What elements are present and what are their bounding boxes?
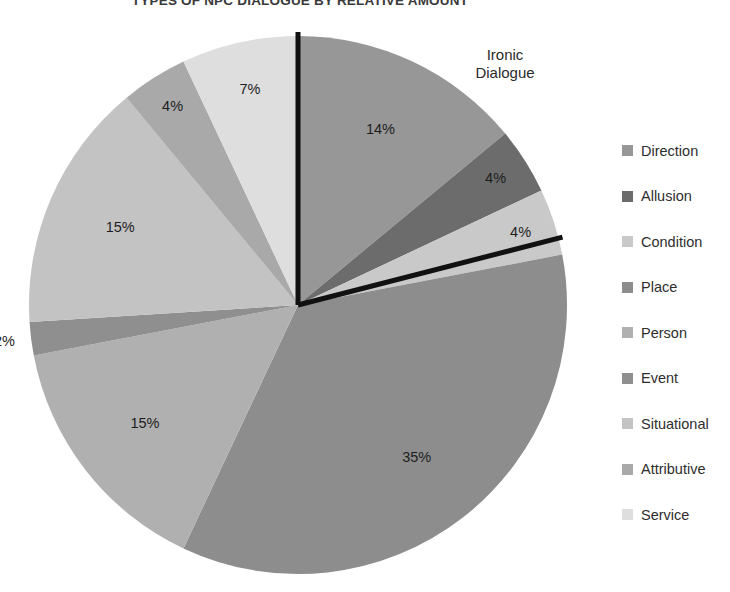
annotation-line-2: Dialogue bbox=[445, 64, 565, 82]
legend-swatch-icon bbox=[622, 145, 633, 156]
pie-slice-percent-label: 14% bbox=[366, 121, 395, 137]
legend-swatch-icon bbox=[622, 509, 633, 520]
legend-item-label: Direction bbox=[641, 143, 698, 159]
pie-slice-percent-label: 4% bbox=[162, 98, 183, 114]
annotation-ironic-dialogue: Ironic Dialogue bbox=[445, 46, 565, 81]
pie-slice-percent-label: 15% bbox=[130, 415, 159, 431]
legend-item-label: Event bbox=[641, 370, 678, 386]
pie-slice-percent-label: 4% bbox=[510, 224, 531, 240]
legend-item-place[interactable]: Place bbox=[622, 265, 730, 311]
legend-item-person[interactable]: Person bbox=[622, 310, 730, 356]
legend-swatch-icon bbox=[622, 327, 633, 338]
pie-slice-percent-label: 4% bbox=[485, 170, 506, 186]
legend-item-label: Situational bbox=[641, 416, 709, 432]
chart-legend: DirectionAllusionConditionPlacePersonEve… bbox=[622, 128, 730, 538]
legend-swatch-icon bbox=[622, 373, 633, 384]
legend-item-label: Service bbox=[641, 507, 689, 523]
legend-item-situational[interactable]: Situational bbox=[622, 401, 730, 447]
pie-chart-canvas: 14%4%4%35%15%2%15%4%7% bbox=[0, 0, 730, 592]
legend-swatch-icon bbox=[622, 282, 633, 293]
legend-item-event[interactable]: Event bbox=[622, 356, 730, 402]
legend-item-label: Person bbox=[641, 325, 687, 341]
legend-swatch-icon bbox=[622, 418, 633, 429]
pie-slice-percent-label: 35% bbox=[402, 449, 431, 465]
legend-item-attributive[interactable]: Attributive bbox=[622, 447, 730, 493]
legend-item-allusion[interactable]: Allusion bbox=[622, 174, 730, 220]
legend-swatch-icon bbox=[622, 236, 633, 247]
legend-item-condition[interactable]: Condition bbox=[622, 219, 730, 265]
pie-slice-percent-label: 2% bbox=[0, 333, 15, 349]
pie-slice-percent-label: 7% bbox=[239, 81, 260, 97]
annotation-line-1: Ironic bbox=[445, 46, 565, 64]
legend-item-label: Attributive bbox=[641, 461, 705, 477]
legend-swatch-icon bbox=[622, 464, 633, 475]
pie-chart-figure: TYPES OF NPC DIALOGUE BY RELATIVE AMOUNT… bbox=[0, 0, 730, 592]
pie-slice-percent-label: 15% bbox=[106, 219, 135, 235]
legend-item-label: Condition bbox=[641, 234, 702, 250]
legend-item-direction[interactable]: Direction bbox=[622, 128, 730, 174]
legend-item-service[interactable]: Service bbox=[622, 492, 730, 538]
legend-item-label: Allusion bbox=[641, 188, 692, 204]
legend-swatch-icon bbox=[622, 191, 633, 202]
legend-item-label: Place bbox=[641, 279, 677, 295]
